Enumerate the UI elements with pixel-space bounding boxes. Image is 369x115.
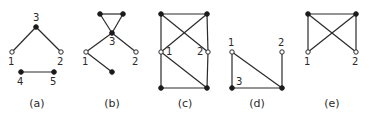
panel-caption-d: (d)	[249, 97, 265, 110]
vertex-label: 2	[57, 56, 63, 67]
filled-vertex	[19, 70, 24, 75]
vertex-label: 1	[8, 56, 14, 67]
edge	[100, 14, 112, 33]
filled-vertex	[280, 86, 285, 91]
edge	[207, 52, 208, 88]
filled-vertex	[34, 25, 39, 30]
filled-vertex	[110, 70, 115, 75]
edge	[161, 52, 207, 88]
edge	[86, 52, 112, 72]
vertex-label: 3	[33, 12, 39, 23]
vertex-label: 2	[132, 56, 138, 67]
open-vertex	[10, 50, 14, 54]
open-vertex	[134, 50, 138, 54]
filled-vertex	[110, 31, 115, 36]
panel-a-edges	[12, 27, 61, 72]
vertex-label: 2	[197, 46, 203, 57]
open-vertex	[354, 50, 358, 54]
edge	[36, 27, 61, 52]
edge	[112, 14, 123, 33]
vertex-label: 1	[82, 56, 88, 67]
filled-vertex	[306, 12, 311, 17]
panel-e-edges	[308, 14, 356, 52]
open-vertex	[306, 50, 310, 54]
filled-vertex	[52, 70, 57, 75]
edge	[207, 14, 208, 52]
graph-figure: 31245(a)312(b)12(c)123(d)12(e)	[0, 0, 369, 115]
open-vertex	[230, 50, 234, 54]
filled-vertex	[159, 12, 164, 17]
panel-caption-c: (c)	[178, 97, 193, 110]
vertex-label: 2	[352, 56, 358, 67]
panel-caption-b: (b)	[104, 97, 120, 110]
vertex-label: 1	[228, 37, 234, 48]
open-vertex	[280, 50, 284, 54]
filled-vertex	[230, 86, 235, 91]
open-vertex	[84, 50, 88, 54]
filled-vertex	[121, 12, 126, 17]
vertex-label: 1	[166, 46, 172, 57]
vertex-label: 4	[17, 76, 23, 87]
filled-vertex	[159, 86, 164, 91]
filled-vertex	[205, 12, 210, 17]
open-vertex	[159, 50, 163, 54]
vertex-label: 5	[50, 76, 56, 87]
panel-a-nodes	[10, 25, 63, 75]
panel-caption-a: (a)	[29, 97, 44, 110]
vertex-label: 2	[278, 37, 284, 48]
nodes-layer	[10, 12, 359, 91]
vertex-label: 1	[304, 56, 310, 67]
filled-vertex	[205, 86, 210, 91]
labels-layer: 31245(a)312(b)12(c)123(d)12(e)	[8, 12, 358, 110]
filled-vertex	[354, 12, 359, 17]
filled-vertex	[98, 12, 103, 17]
open-vertex	[206, 50, 210, 54]
edges-layer	[12, 14, 356, 88]
edge	[112, 33, 136, 52]
vertex-label: 3	[109, 36, 115, 47]
panel-caption-e: (e)	[324, 97, 339, 110]
open-vertex	[59, 50, 63, 54]
edge	[12, 27, 36, 52]
vertex-label: 3	[236, 76, 242, 87]
